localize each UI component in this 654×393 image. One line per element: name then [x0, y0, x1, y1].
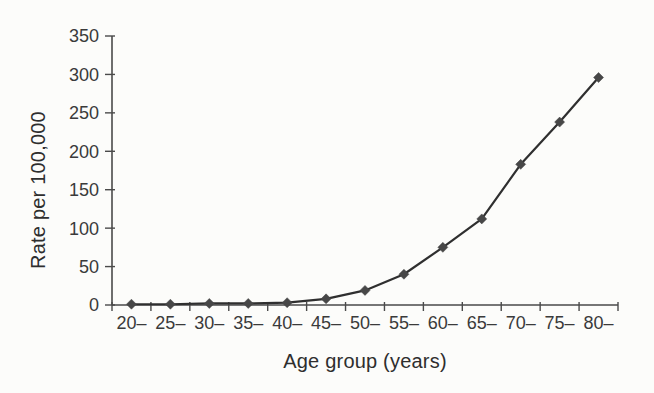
x-tick-label: 50–	[350, 313, 380, 333]
x-tick-label: 65–	[467, 313, 497, 333]
x-tick-label: 35–	[233, 313, 263, 333]
y-tick-label: 50	[79, 257, 99, 277]
x-tick-label: 25–	[155, 313, 185, 333]
data-point-marker	[243, 298, 253, 308]
x-tick-label: 75–	[545, 313, 575, 333]
x-tick-label: 80–	[584, 313, 614, 333]
data-point-marker	[282, 298, 292, 308]
line-chart-canvas: 05010015020025030035020–25–30–35–40–45–5…	[0, 0, 654, 393]
x-axis-title: Age group (years)	[283, 350, 446, 373]
y-tick-label: 0	[89, 295, 99, 315]
y-tick-label: 250	[69, 103, 99, 123]
data-point-marker	[165, 299, 175, 309]
y-axis-title: Rate per 100,000	[27, 111, 50, 269]
y-tick-label: 100	[69, 219, 99, 239]
y-tick-label: 350	[69, 26, 99, 46]
data-point-marker	[126, 299, 136, 309]
y-tick-label: 150	[69, 180, 99, 200]
data-point-marker	[360, 285, 370, 295]
x-tick-label: 70–	[506, 313, 536, 333]
x-tick-label: 30–	[194, 313, 224, 333]
y-tick-label: 300	[69, 65, 99, 85]
x-tick-label: 60–	[428, 313, 458, 333]
x-tick-label: 55–	[389, 313, 419, 333]
data-point-marker	[321, 294, 331, 304]
x-tick-label: 40–	[272, 313, 302, 333]
x-tick-label: 20–	[116, 313, 146, 333]
data-line	[131, 78, 598, 305]
y-tick-label: 200	[69, 142, 99, 162]
data-point-marker	[204, 298, 214, 308]
x-tick-label: 45–	[311, 313, 341, 333]
age-rate-line-chart-figure: 05010015020025030035020–25–30–35–40–45–5…	[0, 0, 654, 393]
